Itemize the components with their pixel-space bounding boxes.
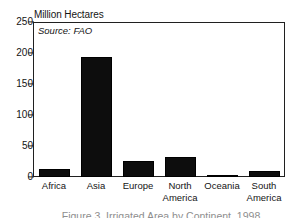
x-tick-label-north-america: North America <box>159 180 201 203</box>
chart-figure: Million Hectares Source: FAO 05010015020… <box>0 0 294 218</box>
x-axis-category-labels: AfricaAsiaEuropeNorth AmericaOceaniaSout… <box>33 180 285 210</box>
x-tick-label-europe: Europe <box>117 180 159 192</box>
chart-axis-title: Million Hectares <box>34 9 104 20</box>
x-tick-label-asia: Asia <box>75 180 117 192</box>
bar-asia[interactable] <box>81 57 112 177</box>
y-axis: 050100150200250 <box>0 0 33 218</box>
figure-caption-cutoff: Figure 3. Irrigated Area by Continent, 1… <box>36 211 286 218</box>
bars-layer <box>33 22 285 177</box>
bar-oceania[interactable] <box>207 175 238 177</box>
x-tick-label-south-america: South America <box>243 180 285 203</box>
bar-europe[interactable] <box>123 161 154 177</box>
x-tick-label-africa: Africa <box>33 180 75 192</box>
bar-south-america[interactable] <box>249 171 280 177</box>
x-tick-label-oceania: Oceania <box>201 180 243 192</box>
bar-africa[interactable] <box>39 169 70 177</box>
bar-north-america[interactable] <box>165 157 196 177</box>
